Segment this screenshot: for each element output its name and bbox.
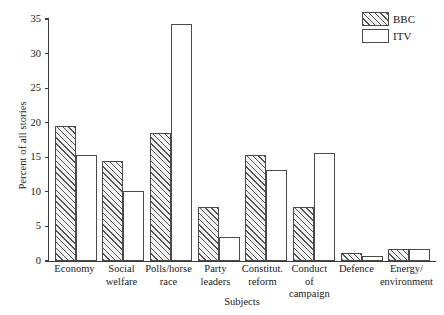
bar-itv (219, 237, 240, 261)
bar-bbc (245, 155, 266, 261)
x-axis-title: Subjects (48, 296, 436, 307)
bar-itv (171, 24, 192, 261)
bar-chart: Percent of all stories 05101520253035 Ec… (0, 0, 444, 315)
bar-itv (314, 153, 335, 261)
y-axis-tick-label: 15 (31, 150, 42, 163)
y-axis-tick-label: 25 (31, 81, 42, 94)
bar-group (385, 20, 433, 261)
bar-itv (409, 249, 430, 261)
bar-group (338, 20, 386, 261)
bar-bbc (293, 207, 314, 261)
bar-groups (49, 20, 436, 261)
plot-area: 05101520253035 (48, 20, 436, 262)
y-axis-tick-label: 10 (31, 185, 42, 198)
bar-bbc (150, 133, 171, 261)
bar-bbc (198, 207, 219, 261)
legend-item-bbc: BBC (362, 10, 415, 27)
bar-group (195, 20, 243, 261)
y-axis-title: Percent of all stories (17, 66, 28, 226)
y-axis-tick-label: 0 (36, 254, 41, 267)
bar-bbc (388, 249, 409, 261)
bar-bbc (102, 161, 123, 261)
legend-item-itv: ITV (362, 27, 415, 44)
bar-group (290, 20, 338, 261)
bar-bbc (55, 126, 76, 261)
y-axis-tick-label: 35 (31, 12, 42, 25)
bar-itv (76, 155, 97, 261)
legend-label-bbc: BBC (393, 13, 415, 25)
bar-bbc (341, 253, 362, 261)
bar-group (243, 20, 291, 261)
bar-itv (123, 191, 144, 261)
legend-swatch-bbc (362, 12, 389, 26)
legend: BBC ITV (362, 10, 415, 44)
bar-group (52, 20, 100, 261)
y-axis-tick-label: 5 (36, 219, 41, 232)
bar-group (147, 20, 195, 261)
bar-itv (266, 170, 287, 261)
legend-swatch-itv (362, 29, 389, 43)
legend-label-itv: ITV (393, 30, 411, 42)
y-axis-tick-label: 20 (31, 116, 42, 129)
bar-itv (362, 256, 383, 261)
bar-group (100, 20, 148, 261)
y-axis-tick-label: 30 (31, 47, 42, 60)
